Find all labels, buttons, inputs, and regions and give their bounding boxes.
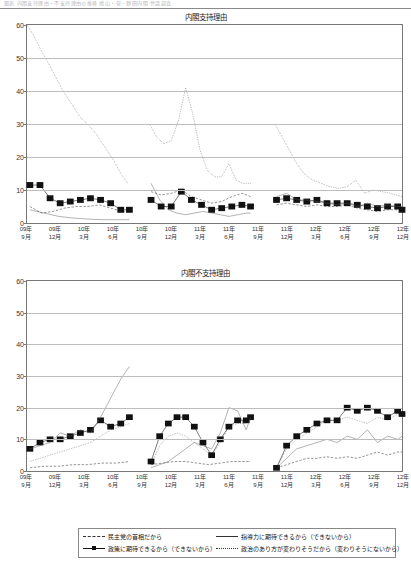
series-line [30, 462, 130, 468]
gridline [27, 344, 402, 345]
x-axis-tick-label: 10年9月 [134, 474, 150, 489]
series-marker [37, 440, 44, 446]
series-marker [37, 182, 44, 188]
chart-support-reasons: 内閣支持理由 0102030405060 09年9月09年12月10年3月10年… [0, 12, 411, 270]
y-axis-tick-label: 50 [16, 54, 24, 61]
gridline [27, 190, 402, 191]
series-line [30, 210, 130, 220]
gridline [27, 313, 402, 314]
chart2-title: 内閣不支持理由 [0, 268, 411, 280]
y-axis-tick-label: 10 [16, 436, 24, 443]
series-marker [399, 207, 406, 213]
faded-header-text: 図表 内閣支持理由・不支持理由の推移 鳩山・菅・野田内閣 世論調査 [4, 0, 407, 7]
chart-legend: 民主党の首相だから指導力に期待できるから（できないから）政策に期待できるから（で… [78, 528, 396, 558]
y-axis-tick-mark [24, 157, 27, 158]
series-marker [27, 446, 34, 452]
legend-item-label: 指導力に期待できるから（できないから） [241, 531, 355, 543]
x-axis-tick-label: 11年3月 [192, 474, 208, 489]
series-marker [228, 204, 235, 210]
series-marker [182, 414, 189, 420]
series-marker [324, 417, 331, 423]
x-axis-tick-label: 09年12月 [47, 226, 63, 241]
gridline [27, 376, 402, 377]
series-line [151, 190, 251, 203]
legend-marker-icon [216, 533, 238, 541]
x-axis-tick-label: 10年6月 [105, 226, 121, 241]
series-marker [247, 204, 254, 210]
series-marker [200, 440, 207, 446]
x-axis-tick-label: 11年12月 [279, 474, 295, 489]
series-marker [148, 197, 155, 203]
series-line [30, 424, 130, 462]
series-marker [208, 207, 215, 213]
x-axis-tick-label: 12年9月 [366, 226, 382, 241]
y-axis-tick-label: 50 [16, 309, 24, 316]
series-marker [97, 197, 104, 203]
y-axis-tick-mark [24, 58, 27, 59]
series-marker [234, 417, 241, 423]
x-axis-tick-label: 10年6月 [105, 474, 121, 489]
y-axis-tick-label: 30 [16, 121, 24, 128]
series-marker [117, 207, 124, 213]
x-axis-tick-label: 12年3月 [308, 474, 324, 489]
chart1-x-axis: 09年9月09年12月10年3月10年6月10年9月10年12月11年3月11年… [26, 224, 403, 270]
y-axis-tick-mark [24, 91, 27, 92]
x-axis-tick-label: 12年12月 [395, 474, 411, 489]
series-marker [198, 202, 205, 208]
series-line [151, 408, 251, 468]
y-axis-tick-mark [24, 124, 27, 125]
series-marker [218, 205, 225, 211]
series-marker [77, 430, 84, 436]
series-marker [303, 427, 310, 433]
legend-marker-icon [83, 533, 105, 541]
x-axis-tick-label: 11年6月 [221, 226, 237, 241]
legend-item-label: 民主党の首相だから [108, 531, 162, 543]
series-marker [283, 443, 290, 449]
series-marker [303, 199, 310, 205]
legend-marker-icon [216, 545, 238, 553]
series-marker [334, 200, 341, 206]
gridline [27, 91, 402, 92]
y-axis-tick-mark [24, 281, 27, 282]
series-marker [239, 202, 246, 208]
gridline [27, 157, 402, 158]
chart2-plot-wrap: 0102030405060 [26, 280, 403, 472]
y-axis-tick-label: 40 [16, 87, 24, 94]
legend-item: 政治のあり方が変わりそうだから（変わりそうにないから） [216, 543, 403, 555]
legend-item-label: 政治のあり方が変わりそうだから（変わりそうにないから） [241, 543, 403, 555]
y-axis-tick-mark [24, 439, 27, 440]
series-marker [364, 204, 371, 210]
chart2-plot-area: 0102030405060 [26, 280, 403, 472]
gridline [27, 439, 402, 440]
series-line [277, 452, 402, 468]
y-axis-tick-mark [24, 376, 27, 377]
legend-item: 民主党の首相だから [83, 531, 216, 543]
series-marker [87, 427, 94, 433]
y-axis-tick-label: 20 [16, 404, 24, 411]
series-marker [47, 195, 54, 201]
legend-marker-icon [83, 545, 105, 553]
series-marker [168, 204, 175, 210]
x-axis-tick-label: 11年6月 [221, 474, 237, 489]
chart1-plot-wrap: 0102030405060 [26, 24, 403, 224]
x-axis-tick-label: 10年9月 [134, 226, 150, 241]
gridline [27, 408, 402, 409]
x-axis-tick-label: 11年12月 [279, 226, 295, 241]
series-marker [57, 200, 64, 206]
series-marker [156, 433, 163, 439]
chart2-x-axis: 09年9月09年12月10年3月10年6月10年9月10年12月11年3月11年… [26, 472, 403, 518]
series-marker [354, 202, 361, 208]
y-axis-tick-label: 20 [16, 153, 24, 160]
x-axis-tick-label: 12年9月 [366, 474, 382, 489]
series-line [151, 462, 251, 465]
series-marker [87, 195, 94, 201]
series-marker [97, 417, 104, 423]
chart1-title: 内閣支持理由 [0, 12, 411, 24]
series-marker [77, 197, 84, 203]
series-line [150, 88, 251, 184]
series-marker [191, 424, 198, 430]
x-axis-tick-label: 11年3月 [192, 226, 208, 241]
series-line [27, 25, 128, 183]
header-divider [0, 8, 411, 9]
chart1-plot-area: 0102030405060 [26, 24, 403, 224]
